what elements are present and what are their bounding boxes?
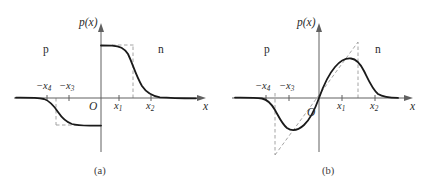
panel-b-region-label-p: p: [264, 44, 270, 56]
y-axis-arrowhead: [316, 23, 322, 32]
panel-b-tick-label-x2: x2: [370, 101, 378, 113]
panel-a-plot: [0, 0, 219, 188]
panel-b-y-axis-label: p(x): [297, 17, 316, 29]
panel-b-curve: [235, 58, 398, 130]
panel-a-region-label-p: p: [43, 44, 49, 56]
panel-b-region-label-n: n: [375, 44, 381, 56]
panel-a-x-axis-label: x: [203, 101, 208, 113]
panel-b-origin-label: O: [307, 107, 315, 119]
panel-a-tick-label-minus-x4: −x4: [36, 81, 51, 93]
panel-b-y-axis: [316, 23, 322, 152]
panel-a-curve-upper: [101, 46, 196, 99]
figure-panel-b: p(x) x p n O −x4 −x3 x1 x2 (b): [218, 0, 437, 188]
figure-panel-a: p(x) x p n O −x4 −x3 x1 x2 (a): [0, 0, 219, 188]
panel-b-x-axis-label: x: [410, 101, 415, 113]
panel-a-y-axis-label: p(x): [79, 17, 98, 29]
panel-b-caption: (b): [322, 166, 334, 177]
panel-b-tick-label-minus-x3: −x3: [279, 81, 294, 93]
panel-b-tick-label-minus-x4: −x4: [255, 81, 270, 93]
panel-a-tick-label-x1: x1: [114, 101, 122, 113]
panel-a-tick-label-x2: x2: [146, 101, 154, 113]
panel-a-region-label-n: n: [158, 44, 164, 56]
panel-a-tick-label-minus-x3: −x3: [59, 81, 74, 93]
panel-a-y-axis: [98, 23, 104, 152]
panel-a-caption: (a): [94, 166, 106, 177]
y-axis-arrowhead: [98, 23, 104, 32]
panel-a-origin-label: O: [89, 101, 97, 113]
figure-root: p(x) x p n O −x4 −x3 x1 x2 (a): [0, 0, 437, 188]
panel-b-plot: [218, 0, 437, 188]
panel-b-tick-label-x1: x1: [337, 101, 345, 113]
